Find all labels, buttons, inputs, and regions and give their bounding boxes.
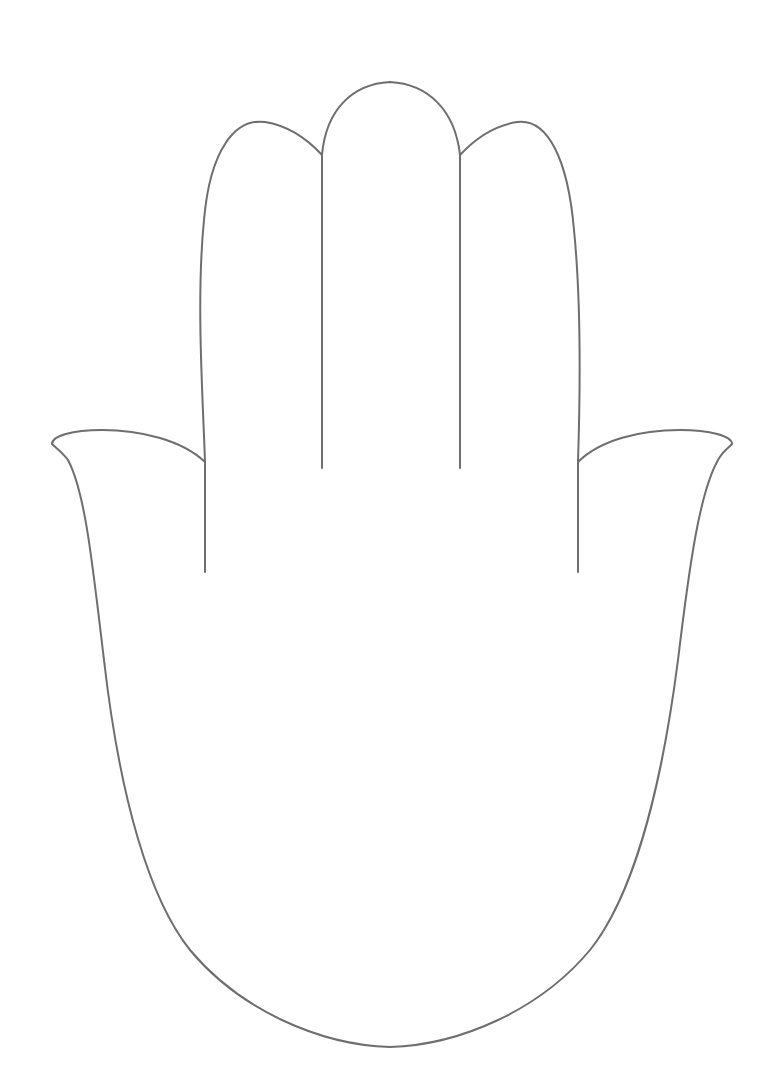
hamsa-hand-drawing [0, 0, 783, 1069]
hamsa-outline [52, 82, 732, 1047]
hand-outline-path [52, 82, 732, 1047]
